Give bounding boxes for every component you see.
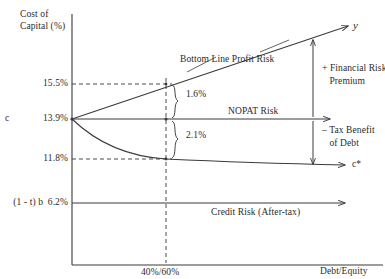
y-tick-15-5: 15.5%: [22, 78, 68, 90]
curve-bottom-line-profit-risk: [72, 26, 348, 119]
bracket-1-6-percent: [172, 85, 178, 118]
annotation-tax-benefit-of-debt: – Tax Benefit of Debt: [322, 124, 375, 150]
label-credit-risk: Credit Risk (After-tax): [211, 207, 300, 219]
y-tick-13-9: 13.9%: [22, 113, 68, 125]
y-axis-title: Cost of Capital (%): [20, 8, 65, 32]
label-gap-2-1-percent: 2.1%: [186, 130, 206, 142]
label-nopat-risk: NOPAT Risk: [228, 106, 278, 118]
bracket-2-1-percent: [172, 121, 178, 158]
symbol-c: c: [5, 113, 9, 125]
curve-after-tax-cost-of-capital: [72, 119, 345, 165]
x-tick-40-60: 40%/60%: [141, 267, 179, 279]
annotation-financial-risk-premium: + Financial Risk Premium: [322, 62, 385, 88]
x-axis-title: Debt/Equity: [320, 266, 368, 278]
label-bottom-line-profit-risk: Bottom Line Profit Risk: [180, 54, 274, 66]
label-curve-end-y: y: [353, 20, 358, 32]
symbol-1-t-b: (1 - t) b: [0, 197, 43, 209]
guide-lines: [72, 84, 172, 159]
y-tick-11-8: 11.8%: [22, 153, 68, 165]
label-gap-1-6-percent: 1.6%: [186, 89, 206, 101]
label-curve-end-c-star: c*: [352, 159, 361, 171]
cost-of-capital-diagram: Cost of Capital (%) Debt/Equity 15.5% 13…: [0, 0, 385, 279]
